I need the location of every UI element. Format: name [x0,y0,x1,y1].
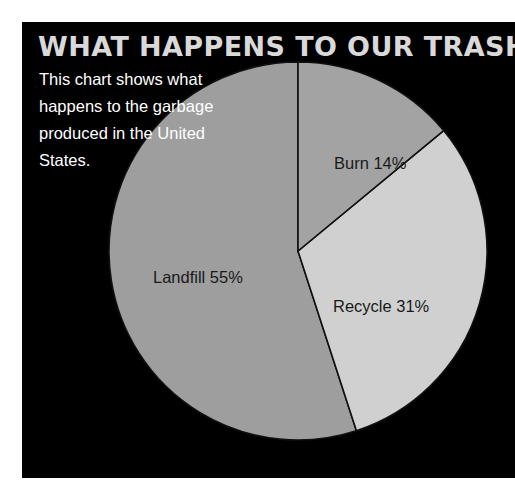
pie-label-recycle: Recycle 31% [333,297,429,316]
pie-label-landfill: Landfill 55% [153,268,243,287]
pie-label-burn: Burn 14% [334,154,406,173]
chart-description: This chart shows what happens to the gar… [39,66,224,174]
poster-panel: WHAT HAPPENS TO OUR TRASH? Landfill 55% … [22,22,515,478]
